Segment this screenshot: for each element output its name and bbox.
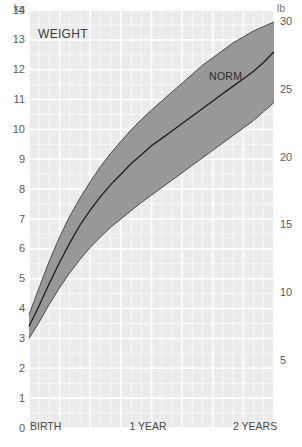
left-tick-2: 2 <box>19 363 25 374</box>
left-tick-11: 11 <box>14 94 25 105</box>
left-tick-14: 14 <box>13 5 25 16</box>
x-tick-2-years: 2 YEARS <box>233 421 277 432</box>
right-tick-30: 30 <box>280 16 292 27</box>
right-tick-5: 5 <box>280 355 286 366</box>
right-tick-20: 20 <box>280 152 292 163</box>
left-tick-12: 12 <box>13 64 25 75</box>
right-tick-15: 15 <box>280 219 292 230</box>
left-tick-13: 13 <box>13 34 25 45</box>
x-tick-1-year: 1 YEAR <box>130 421 167 432</box>
left-tick-7: 7 <box>19 214 25 225</box>
left-tick-3: 3 <box>19 333 25 344</box>
left-tick-0: 0 <box>19 423 25 434</box>
left-tick-9: 9 <box>19 154 25 165</box>
right-tick-10: 10 <box>280 287 292 298</box>
left-tick-6: 6 <box>19 243 25 254</box>
left-tick-1: 1 <box>19 393 25 404</box>
left-tick-4: 4 <box>19 303 25 314</box>
right-tick-25: 25 <box>280 84 292 95</box>
left-tick-10: 10 <box>13 124 25 135</box>
left-tick-8: 8 <box>19 184 25 195</box>
right-axis-ticks: 51015202530 <box>280 0 302 447</box>
left-axis-ticks: 01234567891011121314 <box>0 0 302 447</box>
x-tick-birth: BIRTH <box>30 421 61 432</box>
left-tick-5: 5 <box>19 273 25 284</box>
growth-chart-weight: kg lb WEIGHT NORM 01234567891011121314 5… <box>0 0 302 447</box>
